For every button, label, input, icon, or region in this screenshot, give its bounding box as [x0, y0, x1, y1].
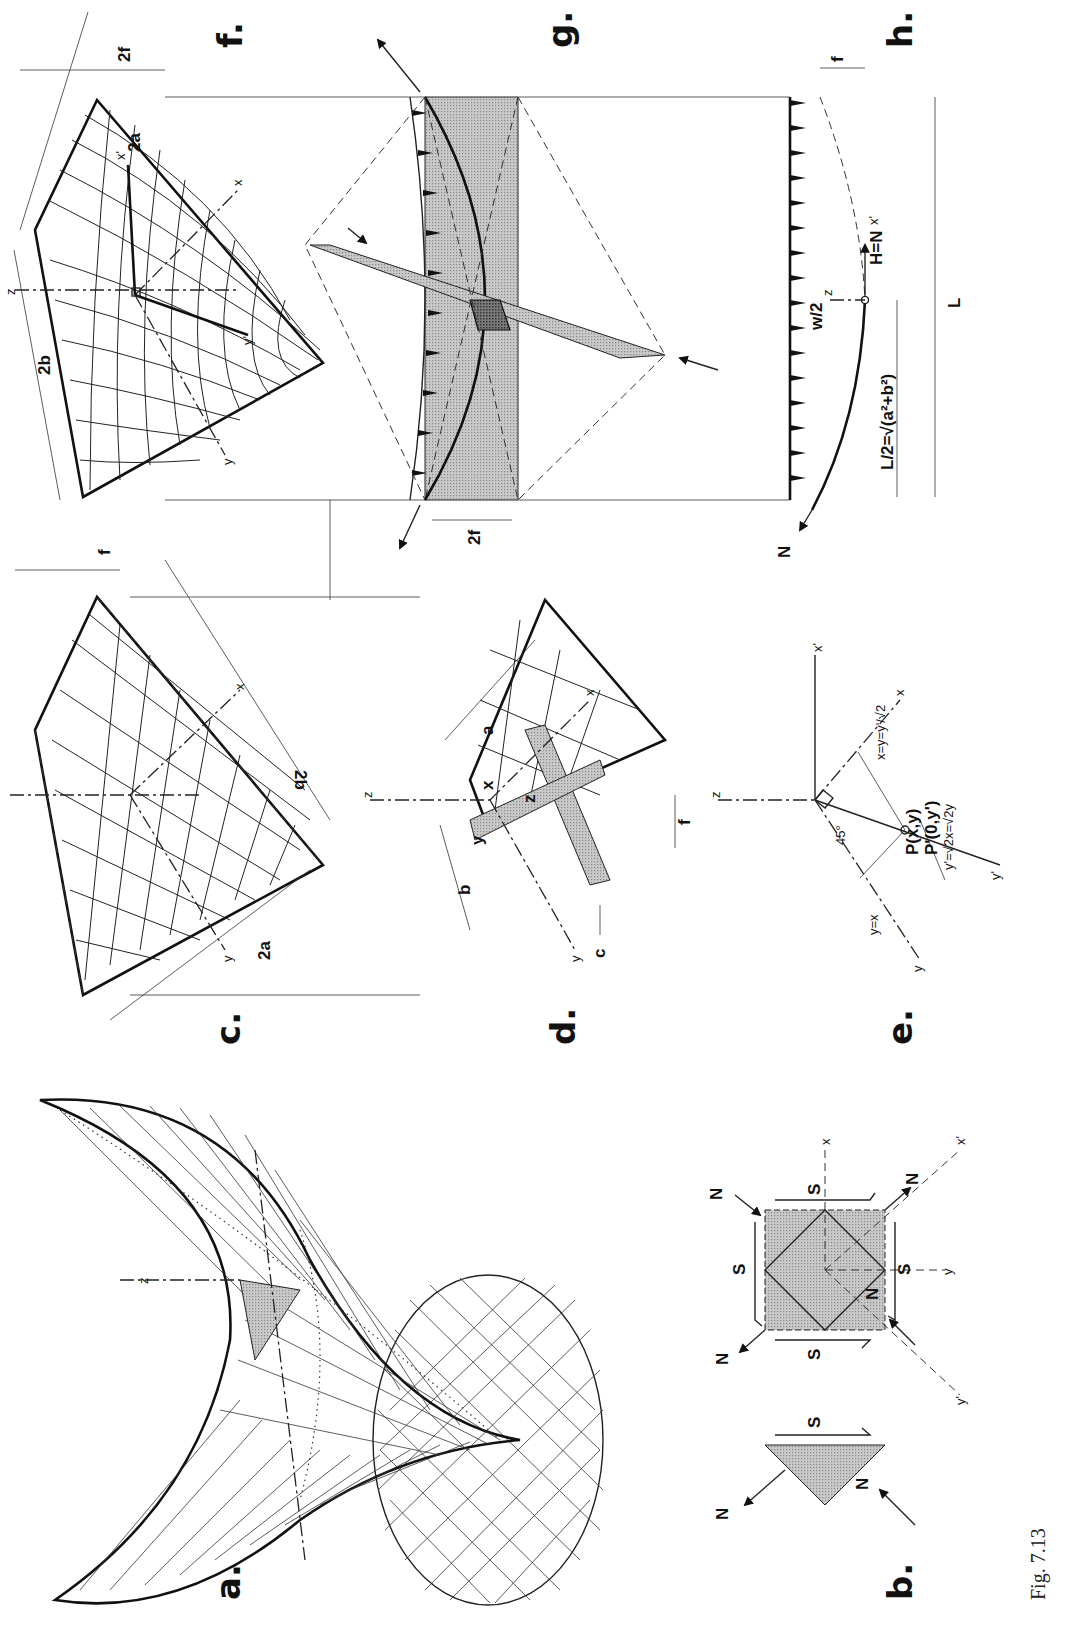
- label-2b-c: 2b: [291, 770, 310, 790]
- dim-2a-c-line: [110, 870, 310, 1020]
- normal-arrow-triangle-2-b: [880, 1490, 915, 1525]
- label-c-d: c: [590, 949, 609, 958]
- label-y-d: y: [568, 955, 583, 962]
- label-x-e: x: [892, 689, 907, 696]
- x-prime-axis-f: [128, 165, 135, 295]
- panel-letter-h: h.: [880, 11, 920, 48]
- label-a-d: a: [478, 725, 497, 735]
- label-z-h: z: [820, 290, 835, 297]
- panel-letter-c: c.: [208, 1012, 248, 1045]
- force-arrow-strip-top-g: [348, 228, 366, 243]
- hypar-outline-c: [35, 597, 323, 995]
- normal-arrow-triangle-1-b: [745, 1470, 785, 1505]
- y-axis-d: [490, 800, 575, 950]
- shear-arrow-triangle-b: [775, 1428, 870, 1435]
- label-yprime-e: y': [988, 871, 1003, 880]
- label-load-h: w/2: [807, 303, 826, 331]
- label-z-d: z: [360, 792, 375, 799]
- label-point-Pprime-e: P'(0,y'): [922, 801, 941, 855]
- label-x-d: x: [582, 689, 597, 696]
- label-2a-f: 2a: [125, 133, 144, 152]
- label-y-f: y: [220, 458, 235, 465]
- dashed-envelope-left-g: [305, 97, 425, 500]
- cable-curve-h: [812, 300, 865, 510]
- label-span-h: L: [945, 298, 964, 308]
- label-N-triangle-1-b: N: [713, 1508, 732, 1520]
- panel-letter-g: g.: [540, 11, 580, 48]
- dim-2a-line: [20, 12, 88, 230]
- label-S-bottom-b: S: [805, 1349, 824, 1360]
- label-coord-x-d: x: [478, 780, 497, 790]
- label-half-span-h: L/2=√(a²+b²): [878, 374, 897, 470]
- label-N-3-b: N: [713, 1353, 732, 1365]
- force-arrow-N-h: [800, 510, 812, 530]
- label-coord-z-d: z: [520, 795, 539, 804]
- label-S-left-b: S: [730, 1264, 749, 1275]
- panel-letter-f: f.: [210, 22, 250, 48]
- label-z-a: z: [136, 1278, 151, 1285]
- plan-ellipse-hatch-a: [378, 1278, 603, 1603]
- dashed-envelope-right-g: [518, 97, 665, 500]
- vertical-axis-a: [255, 1150, 305, 1560]
- panel-letter-b: b.: [880, 1563, 920, 1600]
- label-S-triangle-b: S: [805, 1417, 824, 1428]
- diag-dash-c-2: [35, 730, 83, 995]
- label-2a-c: 2a: [255, 941, 274, 960]
- label-2f-g: 2f: [465, 530, 484, 545]
- y-prime-axis-f: [135, 295, 248, 335]
- label-x-c: x: [232, 683, 247, 690]
- normal-arrow-2-b: [885, 1188, 910, 1210]
- panel-c: f 2b 2a x y c.: [10, 549, 330, 1045]
- label-relation-2-e: y'=√2x=√2y: [941, 804, 956, 870]
- panel-letter-e: e.: [880, 1009, 920, 1045]
- panel-f: 2f 2a 2b z x y x' y' f.: [3, 12, 323, 500]
- label-coord-y-d: y: [468, 835, 487, 845]
- label-y-e: y: [910, 965, 925, 972]
- label-y-b: y: [940, 1268, 955, 1275]
- dim-b-d-line: [440, 825, 470, 930]
- label-relation-1-e: x=y=y'/√2: [873, 705, 888, 760]
- normal-arrow-3-b: [740, 1330, 765, 1352]
- force-arrow-bottom-g: [400, 505, 420, 548]
- shear-arrow-right-b: [888, 1222, 895, 1320]
- label-sag-f-h: f: [828, 56, 847, 62]
- label-z-f: z: [3, 289, 18, 296]
- label-xprime-b: x': [953, 1136, 968, 1145]
- figure-canvas: 2f 2a 2b z x y x' y' f. 2f g.: [0, 0, 1076, 1635]
- label-N-2-b: N: [903, 1173, 922, 1185]
- saddle-generators-a: [60, 1106, 500, 1590]
- panel-b: N N N N S S S S x y x' y' S N N b.: [707, 1136, 968, 1600]
- label-45deg-e: 45°: [833, 825, 848, 845]
- hypar-curved-grid-f: [48, 110, 320, 490]
- hypar-straight-grid-c: [52, 615, 310, 980]
- label-b-d: b: [455, 885, 474, 895]
- panel-a: z a.: [40, 1099, 603, 1605]
- panel-d: a b x y z c f z x y d.: [360, 600, 694, 1045]
- label-point-P-e: P(x,y): [903, 809, 922, 855]
- label-N-triangle-2-b: N: [853, 1478, 872, 1490]
- label-thrust-h: H=N: [867, 231, 886, 265]
- dim-a-d-line: [445, 640, 535, 740]
- label-y-eq-x-e: y=x: [866, 914, 881, 935]
- label-xprime-f: x': [113, 151, 128, 160]
- label-z-e: z: [708, 792, 723, 799]
- label-2b-f: 2b: [35, 355, 54, 375]
- panel-letter-a: a.: [208, 1564, 248, 1600]
- label-2f-f: 2f: [115, 47, 134, 62]
- label-xprime-h: x': [866, 216, 881, 225]
- label-xprime-e: x': [810, 643, 825, 652]
- label-N-4-b: N: [863, 1288, 882, 1300]
- triangle-element-b: [765, 1445, 885, 1505]
- label-f-c: f: [95, 549, 114, 555]
- label-x-f: x: [230, 179, 245, 186]
- cable-curve-g: [410, 97, 425, 500]
- label-x-b: x: [818, 1138, 833, 1145]
- label-N-1-b: N: [707, 1188, 726, 1200]
- panel-e: 45° x=y=y'/√2 P(x,y) P'(0,y') y'=√2x=√2y…: [708, 643, 1003, 1045]
- label-yprime-b: y': [953, 1396, 968, 1405]
- shear-arrow-left-b: [755, 1222, 762, 1326]
- label-yprime-f: y': [240, 336, 255, 345]
- plan-ellipse-a: [373, 1275, 603, 1605]
- y-axis-c: [130, 795, 225, 950]
- label-S-right-b: S: [895, 1264, 914, 1275]
